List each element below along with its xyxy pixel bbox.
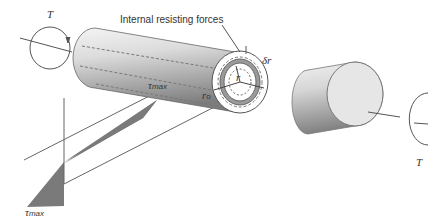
radius-label: r [236, 72, 240, 83]
torque-right-label: T [416, 157, 422, 168]
cross-section-face [212, 25, 268, 113]
tau-max-bottom-label: τmax [25, 207, 44, 218]
torsion-diagram [0, 0, 428, 224]
torque-left-arrow-icon [20, 27, 72, 69]
internal-forces-label: Internal resisting forces [120, 15, 223, 25]
outer-radius-label: ro [202, 90, 211, 101]
torque-left-label: T [47, 9, 53, 20]
delta-r-label: δr [262, 55, 271, 66]
torque-right-arrow-icon [409, 93, 428, 145]
tau-max-top-label: τmax [148, 80, 167, 91]
right-shaft [292, 62, 400, 134]
